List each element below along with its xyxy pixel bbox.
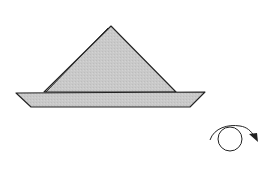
origami-diagram	[0, 0, 272, 174]
brim-band	[16, 92, 205, 107]
triangle-flap	[44, 26, 176, 92]
turn-over-icon	[210, 126, 258, 151]
